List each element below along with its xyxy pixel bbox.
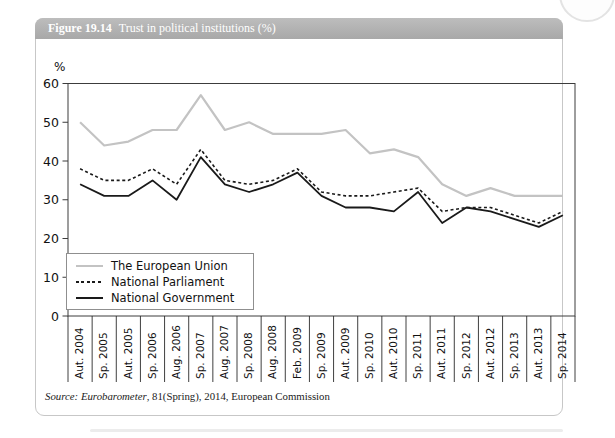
legend-item-european-union: The European Union — [67, 258, 253, 274]
y-tick-label: 20 — [43, 231, 59, 246]
legend-label-parliament: National Parliament — [111, 275, 224, 289]
x-tick-label: Aut. 2013 — [532, 328, 544, 379]
x-tick-label: Sp. 2008 — [242, 332, 254, 379]
x-tick-label: Aut. 2005 — [122, 328, 134, 379]
x-tick-label: Sp. 2014 — [556, 332, 568, 379]
x-tick-label: Sp. 2009 — [315, 332, 327, 379]
x-tick-label: Sp. 2005 — [97, 332, 109, 379]
legend-item-national-government: National Government — [67, 290, 253, 306]
x-tick-label: Sp. 2010 — [363, 332, 375, 379]
source-note-rest: , 81(Spring), 2014, European Commission — [147, 390, 330, 402]
source-note: Source: Eurobarometer, 81(Spring), 2014,… — [45, 390, 330, 402]
y-tick-label: 40 — [43, 154, 59, 169]
x-tick-label: Aug. 2006 — [170, 325, 182, 379]
x-tick-label: Sp. 2012 — [460, 332, 472, 379]
legend-label-government: National Government — [111, 291, 234, 305]
legend-label-eu: The European Union — [111, 259, 228, 273]
y-tick-label: 0 — [51, 309, 59, 324]
legend-item-national-parliament: National Parliament — [67, 274, 253, 290]
x-tick-label: Aug. 2008 — [266, 325, 278, 379]
legend-line-sample-parliament — [76, 281, 103, 283]
y-tick-label: 30 — [43, 192, 59, 207]
x-tick-label: Aut. 2004 — [73, 327, 85, 379]
x-tick-label: Aut. 2012 — [484, 328, 496, 379]
x-tick-label: Feb. 2009 — [291, 327, 303, 379]
y-tick-label: 50 — [43, 115, 59, 130]
x-tick-label: Sp. 2013 — [508, 332, 520, 379]
x-tick-label: Aut. 2011 — [435, 328, 447, 379]
x-tick-label: Aut. 2010 — [387, 328, 399, 379]
y-tick-label: 10 — [43, 270, 59, 285]
x-tick-label: Sp. 2011 — [411, 332, 423, 379]
x-tick-label: Aug. 2007 — [218, 325, 230, 379]
legend-line-sample-government — [76, 297, 103, 299]
x-tick-label: Sp. 2006 — [146, 332, 158, 379]
source-note-italic: Source: Eurobarometer — [45, 390, 147, 402]
y-tick-label: 60 — [43, 76, 59, 91]
chart-legend: The European Union National Parliament N… — [66, 253, 254, 310]
x-tick-label: Sp. 2007 — [194, 332, 206, 379]
x-tick-label: Aut. 2009 — [339, 328, 351, 379]
legend-line-sample-eu — [76, 265, 103, 268]
y-axis-unit-label: % — [54, 60, 65, 74]
page-bottom-rule-decoration — [90, 429, 563, 432]
